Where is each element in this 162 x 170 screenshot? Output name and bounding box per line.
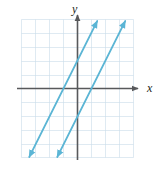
y-axis-label: y — [72, 3, 77, 15]
coordinate-plane — [0, 0, 162, 170]
axes — [17, 15, 138, 160]
graph-figure: y x — [0, 0, 162, 170]
x-axis-label: x — [147, 82, 152, 94]
